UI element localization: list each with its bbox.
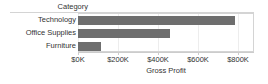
- x-tick-label-4: $800K: [227, 55, 249, 65]
- x-axis-line: [78, 52, 254, 53]
- x-tick-label-3: $600K: [187, 55, 209, 65]
- category-field-label: Category: [58, 1, 88, 12]
- gross-profit-bar-chart: Category Technology Office Supplies Furn…: [0, 0, 268, 84]
- x-tick-label-1: $200K: [107, 55, 129, 65]
- bar-office-supplies[interactable]: [78, 29, 170, 38]
- category-label-technology[interactable]: Technology: [0, 13, 76, 26]
- chart-header: Category: [10, 1, 254, 12]
- bar-furniture[interactable]: [78, 42, 101, 51]
- plot-area: [78, 13, 254, 52]
- gridline-800k: [238, 14, 239, 51]
- x-axis-title: Gross Profit: [78, 66, 254, 76]
- x-tick-label-0: $0K: [71, 55, 84, 65]
- category-axis-labels: Technology Office Supplies Furniture: [0, 13, 76, 52]
- bar-technology[interactable]: [78, 16, 235, 25]
- x-tick-label-2: $400K: [147, 55, 169, 65]
- category-label-furniture[interactable]: Furniture: [0, 39, 76, 52]
- category-label-office-supplies[interactable]: Office Supplies: [0, 26, 76, 39]
- plot-inner: [78, 14, 253, 51]
